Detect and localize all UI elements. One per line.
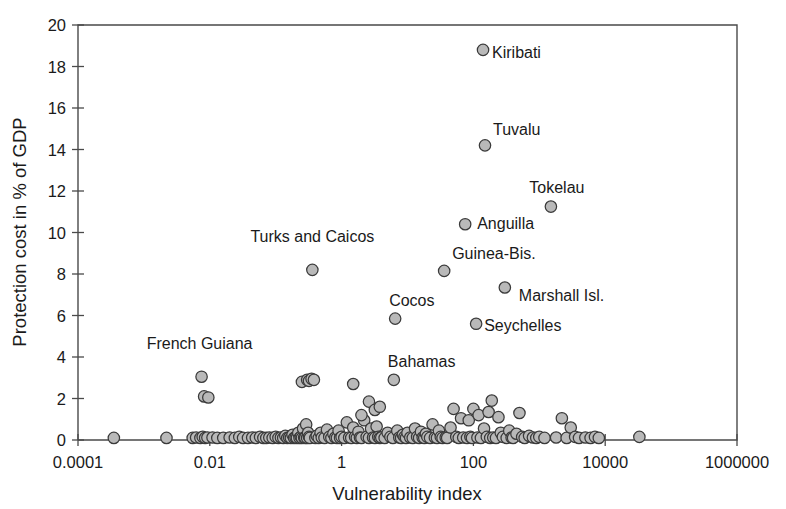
point-annotation-label: Marshall Isl. [519,287,604,304]
y-tick-label: 14 [48,141,66,159]
data-point [203,392,214,403]
point-annotation-label: Anguilla [477,215,534,232]
x-tick-label: 100 [460,453,488,471]
y-tick-label: 8 [57,265,66,283]
plot-background [78,25,737,440]
data-point [470,318,481,329]
data-point [438,265,449,276]
data-point [593,432,604,443]
data-point [634,431,645,442]
x-tick-label: 1 [337,453,346,471]
point-annotation-label: Kiribati [492,44,541,61]
point-annotation-label: Cocos [389,292,434,309]
point-annotation-label: Seychelles [484,317,561,334]
data-point [388,374,399,385]
y-tick-label: 20 [48,16,66,34]
data-point [479,140,490,151]
data-point [499,282,510,293]
data-point [539,432,550,443]
scatter-plot-figure: 02468101214161820 0.00010.01110010000100… [0,0,786,509]
point-annotation-label: Bahamas [388,353,456,370]
y-tick-label: 2 [57,390,66,408]
data-point [356,409,367,420]
y-tick-label: 4 [57,348,66,366]
point-annotation-label: Guinea-Bis. [452,245,536,262]
x-tick-label: 0.0001 [53,453,103,471]
data-point [477,44,488,55]
point-annotation-label: Turks and Caicos [250,228,374,245]
y-tick-label: 6 [57,307,66,325]
data-point [308,374,319,385]
y-tick-label: 0 [57,431,66,449]
data-point [545,201,556,212]
data-point [196,371,207,382]
data-point [448,403,459,414]
x-axis-title: Vulnerability index [332,483,482,504]
data-point [550,432,561,443]
point-annotation-label: Tokelau [529,179,584,196]
x-tick-label: 10000 [582,453,628,471]
y-axis-title: Protection cost in % of GDP [9,117,30,346]
data-point [348,378,359,389]
chart-svg: 02468101214161820 0.00010.01110010000100… [0,0,786,509]
x-tick-label: 1000000 [705,453,769,471]
data-point [371,421,382,432]
x-tick-label: 0.01 [194,453,226,471]
data-point [514,407,525,418]
y-tick-label: 16 [48,99,66,117]
data-point [161,432,172,443]
point-annotation-label: Tuvalu [493,121,540,138]
y-tick-label: 10 [48,224,66,242]
data-point [108,432,119,443]
data-point [556,413,567,424]
y-tick-label: 12 [48,182,66,200]
data-point [374,401,385,412]
data-point [493,411,504,422]
data-point [307,264,318,275]
y-tick-label: 18 [48,58,66,76]
data-point [389,313,400,324]
point-annotation-label: French Guiana [147,335,253,352]
data-point [486,395,497,406]
data-point [459,219,470,230]
